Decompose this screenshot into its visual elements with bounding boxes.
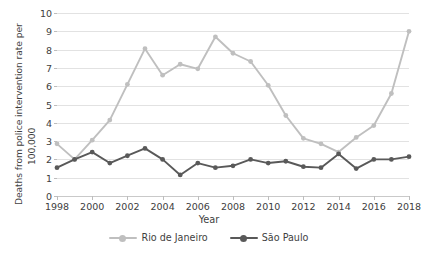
data-point (90, 150, 95, 155)
legend-label: Rio de Janeiro (141, 232, 207, 243)
data-point (195, 161, 200, 166)
legend-swatch-icon (230, 233, 258, 242)
x-tick-mark (268, 196, 269, 200)
x-tick-label: 2006 (186, 201, 210, 212)
data-point (266, 83, 271, 88)
y-tick-label: 10 (40, 8, 52, 19)
data-point (283, 159, 288, 164)
legend-item-rio-de-janeiro[interactable]: Rio de Janeiro (109, 232, 207, 243)
data-point (301, 164, 306, 169)
y-tick-label: 2 (46, 154, 52, 165)
data-point (319, 165, 324, 170)
legend-item-sao-paulo[interactable]: São Paulo (230, 232, 309, 243)
y-tick-label: 5 (46, 99, 52, 110)
data-point (389, 91, 394, 96)
data-point (125, 153, 130, 158)
data-point (55, 165, 60, 170)
x-tick-mark (127, 196, 128, 200)
data-point (371, 157, 376, 162)
x-axis-ticks: 1998200020022004200620082010201220142016… (57, 196, 409, 216)
x-tick-mark (57, 196, 58, 200)
legend-label: São Paulo (262, 232, 309, 243)
data-point (407, 29, 412, 34)
y-tick-label: 4 (46, 117, 52, 128)
series-rio-de-janeiro (55, 29, 412, 162)
data-point (107, 118, 112, 123)
data-point (213, 34, 218, 39)
x-tick-mark (374, 196, 375, 200)
data-point (283, 113, 288, 118)
y-tick-label: 9 (46, 26, 52, 37)
data-point (213, 165, 218, 170)
x-tick-label: 1998 (45, 201, 69, 212)
legend-marker-dot (119, 235, 126, 242)
data-point (72, 157, 77, 162)
plot-area (57, 13, 409, 196)
legend-marker-dot (240, 235, 247, 242)
x-tick-label: 2004 (151, 201, 175, 212)
series-sao-paulo (55, 146, 412, 177)
x-tick-mark (163, 196, 164, 200)
x-tick-mark (198, 196, 199, 200)
x-tick-mark (233, 196, 234, 200)
x-axis-title: Year (0, 214, 418, 225)
y-tick-label: 8 (46, 44, 52, 55)
x-tick-label: 2014 (327, 201, 351, 212)
data-point (195, 66, 200, 71)
data-point (125, 82, 130, 87)
x-tick-label: 2012 (291, 201, 315, 212)
y-axis-ticks: 109876543210 (0, 13, 57, 196)
chart-legend: Rio de JaneiroSão Paulo (0, 232, 418, 243)
x-tick-label: 2002 (115, 201, 139, 212)
data-point (160, 73, 165, 78)
series-layer (57, 13, 409, 196)
x-tick-mark (303, 196, 304, 200)
x-tick-mark (339, 196, 340, 200)
x-tick-mark (409, 196, 410, 200)
x-tick-label: 2000 (80, 201, 104, 212)
data-point (301, 136, 306, 141)
series-line (57, 31, 409, 159)
data-point (160, 157, 165, 162)
data-point (143, 46, 148, 51)
data-point (389, 157, 394, 162)
x-tick-mark (92, 196, 93, 200)
y-tick-label: 0 (46, 191, 52, 202)
data-point (354, 135, 359, 140)
data-point (248, 59, 253, 64)
data-point (354, 166, 359, 171)
data-point (371, 123, 376, 128)
data-point (107, 161, 112, 166)
y-tick-label: 7 (46, 62, 52, 73)
legend-swatch-icon (109, 233, 137, 242)
data-point (266, 161, 271, 166)
data-point (178, 62, 183, 67)
y-tick-label: 6 (46, 81, 52, 92)
x-tick-label: 2010 (256, 201, 280, 212)
data-point (231, 163, 236, 168)
data-point (178, 173, 183, 178)
x-tick-label: 2008 (221, 201, 245, 212)
data-point (55, 141, 60, 146)
x-tick-label: 2016 (362, 201, 386, 212)
data-point (407, 154, 412, 159)
data-point (319, 141, 324, 146)
x-tick-label: 2018 (397, 201, 421, 212)
y-tick-label: 3 (46, 136, 52, 147)
data-point (248, 157, 253, 162)
data-point (336, 152, 341, 157)
y-tick-label: 1 (46, 172, 52, 183)
data-point (231, 51, 236, 56)
data-point (90, 138, 95, 143)
data-point (143, 146, 148, 151)
